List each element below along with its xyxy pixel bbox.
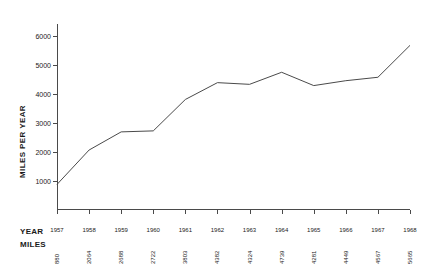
miles-cell: 5665 [407,251,413,264]
miles-cell: 4281 [311,251,317,264]
miles-cell: 2688 [118,251,124,264]
y-tick-label: 6000 [35,32,51,39]
x-tick [89,210,90,214]
data-series-line [57,24,410,210]
x-tick [250,210,251,214]
year-cell: 1962 [211,225,224,236]
x-tick [410,210,411,214]
x-tick [153,210,154,214]
year-cell: 1959 [114,225,127,236]
series-polyline [57,45,410,184]
y-tick-label: 5000 [35,61,51,68]
miles-row-label: MILES [20,238,46,251]
year-cell: 1957 [50,225,63,236]
miles-cell: 4382 [214,251,220,264]
year-cell: 1963 [243,225,256,236]
plot-area: 100020003000400050006000 [57,24,410,210]
year-value-row: 1957195819591960196119621963196419651966… [57,225,410,236]
x-tick [121,210,122,214]
y-tick-label: 1000 [35,177,51,184]
year-cell: 1958 [82,225,95,236]
x-tick [185,210,186,214]
year-cell: 1960 [147,225,160,236]
miles-cell: 2064 [86,251,92,264]
year-cell: 1964 [275,225,288,236]
year-row-label: YEAR [20,225,46,238]
x-tick [217,210,218,214]
x-tick [314,210,315,214]
x-tick [346,210,347,214]
miles-cell: 880 [54,254,60,264]
y-tick-label: 3000 [35,119,51,126]
miles-cell: 2722 [150,251,156,264]
x-tick [57,210,58,214]
y-tick-label: 4000 [35,90,51,97]
y-axis-title: MILES PER YEAR [18,105,27,178]
year-cell: 1967 [371,225,384,236]
miles-cell: 4449 [343,251,349,264]
x-tick [282,210,283,214]
miles-cell: 4567 [375,251,381,264]
table-row-labels: YEAR MILES [20,225,46,251]
year-cell: 1968 [403,225,416,236]
miles-cell: 3803 [182,251,188,264]
miles-value-row: 8802064268827223803438243244739428144494… [57,238,410,264]
y-tick-label: 2000 [35,148,51,155]
miles-cell: 4324 [247,251,253,264]
year-cell: 1966 [339,225,352,236]
year-cell: 1961 [179,225,192,236]
year-cell: 1965 [307,225,320,236]
miles-cell: 4739 [279,251,285,264]
line-chart: MILES PER YEAR 100020003000400050006000 … [0,0,445,267]
x-tick [378,210,379,214]
